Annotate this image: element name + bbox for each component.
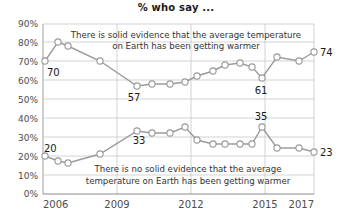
data-point bbox=[274, 54, 280, 60]
data-point bbox=[55, 158, 61, 164]
data-point bbox=[167, 81, 173, 87]
data-point bbox=[134, 83, 140, 89]
y-tick-label: 70% bbox=[18, 57, 38, 67]
series-no-solid-evidence bbox=[42, 124, 317, 166]
data-point bbox=[237, 141, 243, 147]
data-point bbox=[182, 79, 188, 85]
y-tick-label: 80% bbox=[18, 38, 38, 48]
annotation-solid-line2: on Earth has been getting warmer bbox=[112, 41, 260, 51]
y-tick-label: 0% bbox=[24, 189, 39, 199]
series-no-solid-evidence-line bbox=[45, 127, 314, 163]
x-tick-label: 2017 bbox=[289, 199, 314, 210]
data-point bbox=[97, 58, 103, 64]
data-label-nosolid-mid: 33 bbox=[133, 135, 146, 146]
data-point bbox=[222, 141, 228, 147]
data-point bbox=[296, 145, 302, 151]
data-point bbox=[134, 128, 140, 134]
data-labels: 70 57 61 74 20 33 35 23 bbox=[44, 47, 333, 158]
data-label-solid-dip: 61 bbox=[255, 85, 268, 96]
data-point bbox=[274, 145, 280, 151]
data-point bbox=[65, 43, 71, 49]
data-point bbox=[259, 75, 265, 81]
y-tick-label: 30% bbox=[18, 133, 38, 143]
data-point bbox=[237, 60, 243, 66]
annotation-solid-evidence: There is solid evidence that the average… bbox=[70, 30, 301, 51]
data-point bbox=[97, 151, 103, 157]
x-axis-ticklabels: 2006 2009 2012 2015 2017 bbox=[43, 199, 314, 210]
data-label-nosolid-peak: 35 bbox=[255, 111, 268, 122]
data-point bbox=[149, 81, 155, 87]
data-label-nosolid-last: 23 bbox=[320, 147, 333, 158]
data-point bbox=[222, 62, 228, 68]
data-point bbox=[182, 124, 188, 130]
y-tick-label: 50% bbox=[18, 95, 38, 105]
annotation-solid-line1: There is solid evidence that the average… bbox=[70, 30, 301, 40]
data-point bbox=[210, 141, 216, 147]
data-label-nosolid-first: 20 bbox=[44, 143, 57, 154]
data-point bbox=[249, 141, 255, 147]
y-tick-label: 90% bbox=[18, 19, 38, 29]
series-no-solid-evidence-markers bbox=[42, 124, 317, 166]
data-point bbox=[42, 58, 48, 64]
data-point bbox=[311, 49, 317, 55]
x-tick-label: 2009 bbox=[104, 199, 129, 210]
data-point bbox=[55, 39, 61, 45]
y-tick-label: 60% bbox=[18, 76, 38, 86]
data-point bbox=[249, 64, 255, 70]
data-label-solid-first: 70 bbox=[47, 67, 60, 78]
data-point bbox=[149, 130, 155, 136]
data-point bbox=[194, 73, 200, 79]
y-tick-label: 20% bbox=[18, 152, 38, 162]
data-point bbox=[259, 124, 265, 130]
data-label-solid-low: 57 bbox=[128, 92, 141, 103]
y-tick-label: 10% bbox=[18, 171, 38, 181]
annotation-nosolid-line2: temperature on Earth has been getting wa… bbox=[86, 176, 291, 186]
y-tick-label: 40% bbox=[18, 114, 38, 124]
data-point bbox=[210, 68, 216, 74]
data-point bbox=[65, 160, 71, 166]
data-point bbox=[167, 130, 173, 136]
annotation-nosolid-line1: There is no solid evidence that the aver… bbox=[94, 164, 282, 174]
x-tick-label: 2012 bbox=[178, 199, 203, 210]
x-tick-label: 2006 bbox=[43, 199, 68, 210]
chart-container: % who say ... 90% 80% 70% 60 bbox=[0, 0, 352, 218]
chart-plot: 90% 80% 70% 60% 50% 40% 30% 20% 10% 0% 2… bbox=[0, 0, 352, 218]
data-point bbox=[311, 149, 317, 155]
x-tick-label: 2015 bbox=[252, 199, 277, 210]
data-point bbox=[296, 58, 302, 64]
data-label-solid-last: 74 bbox=[320, 47, 333, 58]
data-point bbox=[194, 137, 200, 143]
y-axis-ticklabels: 90% 80% 70% 60% 50% 40% 30% 20% 10% 0% bbox=[18, 19, 38, 199]
